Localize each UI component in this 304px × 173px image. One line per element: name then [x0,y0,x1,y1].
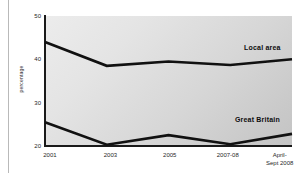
series-lines [45,16,292,146]
y-tick-label-30: 30 [34,100,41,106]
x-tick-label-3-line1: 2007-08 [217,151,239,159]
plot-area: 50 40 30 20 2001 2003 2005 2007-08 April… [45,16,292,146]
x-tick-label-0: 2001 [43,151,56,159]
y-tick-label-20: 20 [34,143,41,149]
x-tick-label-1: 2003 [104,151,117,159]
x-tick-label-2: 2005 [163,151,176,159]
series-line-great-britain [45,122,292,145]
y-tick-label-50: 50 [34,13,41,19]
y-tick-label-40: 40 [34,56,41,62]
x-tick-label-1-line1: 2003 [104,151,117,159]
x-tick-label-4-line1: April- [266,151,293,159]
x-tick-label-4-line2: Sept 2008 [266,159,293,167]
page-left-rule [8,0,9,173]
x-tick-label-3: 2007-08 [217,151,239,159]
series-label-great-britain: Great Britain [235,116,280,123]
series-label-local-area: Local area [244,44,281,51]
x-tick-label-2-line1: 2005 [163,151,176,159]
chart-page: percentage 50 40 30 20 2001 2003 2005 20… [0,0,304,173]
x-tick-label-0-line1: 2001 [43,151,56,159]
y-axis-title: percentage [18,49,24,109]
x-tick-label-4: April- Sept 2008 [266,151,293,167]
